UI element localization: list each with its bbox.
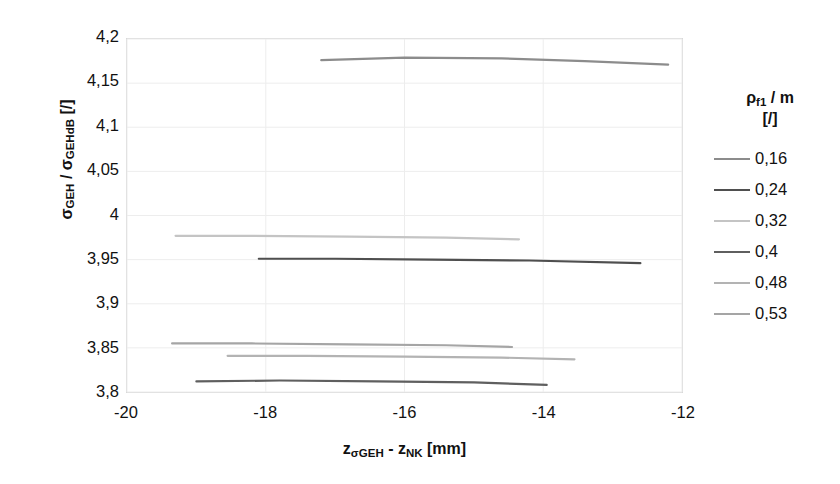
legend-item-label: 0,16	[755, 149, 787, 168]
legend-color-swatch	[714, 282, 750, 284]
series-line-0-48	[228, 356, 575, 360]
legend-title-line2: [/]	[700, 109, 840, 129]
y-tick-label: 3,85	[56, 338, 119, 357]
x-axis-title: zσGEH - zNK [mm]	[126, 440, 683, 459]
plot-area	[126, 38, 683, 393]
legend-item[interactable]: 0,48	[700, 267, 840, 298]
series-line-0-53	[172, 343, 512, 347]
x-tick-label: -14	[514, 403, 574, 422]
y-axis-title-text: σGEH / σGEHdB [/]	[58, 99, 75, 219]
legend-item[interactable]: 0,32	[700, 205, 840, 236]
x-tick-label: -20	[96, 403, 156, 422]
series-line-0-16	[321, 58, 668, 65]
legend-color-swatch	[714, 313, 750, 315]
legend-item[interactable]: 0,24	[700, 174, 840, 205]
plot-canvas	[127, 39, 682, 392]
legend-color-swatch	[714, 158, 750, 160]
series-line-0-32	[176, 236, 519, 240]
y-axis-title: σGEH / σGEHdB [/]	[58, 29, 77, 289]
legend-item-label: 0,24	[755, 180, 787, 199]
legend-color-swatch	[714, 220, 750, 222]
y-tick-label: 3,8	[56, 382, 119, 401]
legend-title-line1: ρf1 / m	[746, 89, 794, 106]
x-tick-label: -18	[235, 403, 295, 422]
legend-item-label: 0,53	[755, 304, 787, 323]
legend-item-label: 0,4	[755, 242, 778, 261]
y-tick-label: 3,9	[56, 293, 119, 312]
x-tick-label: -12	[653, 403, 713, 422]
chart-legend: ρf1 / m [/] 0,160,240,320,40,480,53	[700, 88, 840, 329]
legend-color-swatch	[714, 251, 750, 253]
series-line-0-4	[196, 381, 546, 385]
legend-item-label: 0,48	[755, 273, 787, 292]
legend-color-swatch	[714, 189, 750, 191]
legend-items: 0,160,240,320,40,480,53	[700, 143, 840, 329]
x-axis-title-text: zσGEH - zNK [mm]	[343, 440, 466, 457]
legend-item-label: 0,32	[755, 211, 787, 230]
legend-title: ρf1 / m [/]	[700, 88, 840, 129]
chart-page: 4,24,154,14,0543,953,93,853,8 σGEH / σGE…	[0, 0, 840, 484]
legend-item[interactable]: 0,16	[700, 143, 840, 174]
legend-item[interactable]: 0,4	[700, 236, 840, 267]
x-tick-label: -16	[375, 403, 435, 422]
legend-item[interactable]: 0,53	[700, 298, 840, 329]
